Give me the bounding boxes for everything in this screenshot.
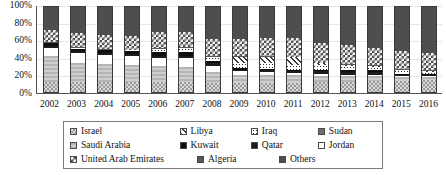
x-axis-tick-label: 2008 [200,96,224,112]
legend-label: Qatar [262,140,283,151]
legend-swatch-icon [70,142,77,149]
bar-segment [151,6,167,32]
bar-column [232,6,248,93]
bar-segment [367,48,383,65]
legend-label: Israel [81,126,102,137]
x-axis-tick-label: 2013 [335,96,359,112]
x-axis-tick-label: 2002 [38,96,62,112]
bar-segment [259,6,275,38]
bar-segment [70,53,86,63]
x-axis-labels: 2002200320042005200620072008200920102011… [36,96,442,112]
y-axis-tick-label: 20% [15,72,32,82]
bar-segment [259,38,275,55]
y-axis-labels: 0%20%40%60%80%100% [0,6,34,98]
x-axis-tick-label: 2004 [92,96,116,112]
x-axis-tick-label: 2015 [389,96,413,112]
legend-item[interactable]: Algeria [197,154,270,165]
bar-segment [124,56,140,66]
y-axis-tick-label: 0% [19,89,32,99]
x-axis-tick-label: 2011 [281,96,305,112]
legend-item[interactable]: Qatar [251,140,309,151]
x-axis-tick-label: 2005 [119,96,143,112]
bar-column [421,6,437,93]
legend-item[interactable]: Others [279,154,347,165]
bar-segment [286,38,302,56]
bar-segment [97,64,113,81]
legend-swatch-icon [197,156,204,163]
legend-item[interactable]: Iraq [251,126,309,137]
bar-segment [394,51,410,68]
bar-segment [124,6,140,36]
legend-item[interactable]: United Arab Emirates [70,154,188,165]
bar-segment [97,6,113,35]
y-axis-tick-label: 80% [15,19,32,29]
legend-item[interactable]: Jordan [318,140,369,151]
legend-label: Iraq [262,126,277,137]
legend-swatch-icon [180,142,187,149]
bar-column [178,6,194,93]
legend-swatch-icon [318,142,325,149]
x-axis-tick-label: 2006 [146,96,170,112]
bar-segment [43,30,59,42]
bar-segment [151,58,167,66]
bar-segment [205,39,221,56]
bar-segment [232,83,248,93]
bar-segment [340,45,356,64]
bar-segment [421,6,437,53]
bar-segment [178,6,194,32]
bar-segment [232,39,248,56]
bar-column [367,6,383,93]
bar-segment [178,32,194,47]
bar-segment [286,83,302,93]
bar-segment [421,80,437,93]
legend-item[interactable]: Saudi Arabia [70,140,171,151]
bar-segment [313,6,329,43]
legend-item[interactable]: Israel [70,126,171,137]
bar-segment [205,72,221,82]
bar-column [286,6,302,93]
bar-segment [286,6,302,38]
legend-label: United Arab Emirates [81,154,164,165]
legend-swatch-icon [180,128,187,135]
x-axis-tick-label: 2014 [362,96,386,112]
bar-segment [151,82,167,93]
bar-segment [205,6,221,39]
bar-segment [232,6,248,39]
bar-segment [367,6,383,48]
legend-swatch-icon [279,156,286,163]
plot-frame [36,6,442,94]
bar-segment [97,82,113,93]
legend-swatch-icon [70,128,77,135]
legend-label: Kuwait [191,140,219,151]
x-axis-tick-label: 2007 [173,96,197,112]
bar-segment [151,32,167,48]
legend-label: Jordan [329,140,354,151]
bar-segment [70,63,86,82]
legend-item[interactable]: Kuwait [180,140,242,151]
bar-segment [97,35,113,49]
legend-item[interactable]: Libya [180,126,242,137]
bar-segment [43,56,59,81]
legend-item[interactable]: Sudan [318,126,369,137]
stacked-bar-chart: 0%20%40%60%80%100% 200220032004200520062… [0,0,446,175]
bar-segment [313,43,329,62]
x-axis-tick-label: 2003 [65,96,89,112]
bar-segment [394,6,410,51]
bar-column [340,6,356,93]
x-axis-tick-label: 2010 [254,96,278,112]
bar-segment [394,81,410,93]
legend-label: Sudan [329,126,353,137]
bar-segment [259,57,275,64]
bar-segment [70,6,86,33]
y-axis-tick-label: 100% [10,1,32,11]
bar-segment [286,75,302,83]
x-axis-tick-label: 2016 [416,96,440,112]
bar-segment [43,6,59,30]
bar-segment [259,75,275,83]
legend-swatch-icon [251,128,258,135]
bars-container [37,6,442,93]
bar-segment [340,6,356,45]
bar-column [43,6,59,93]
bar-segment [205,83,221,93]
legend-label: Libya [191,126,213,137]
